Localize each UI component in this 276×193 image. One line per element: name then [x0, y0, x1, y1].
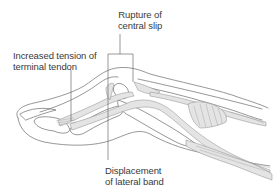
- flexor-tendon-bundle: [186, 140, 272, 180]
- label-line: Increased tension of: [13, 50, 97, 61]
- label-increased-tension-terminal-tendon: Increased tension of terminal tendon: [13, 50, 97, 72]
- label-line: of lateral band: [105, 176, 164, 187]
- label-rupture-of-central-slip: Rupture of central slip: [117, 9, 163, 31]
- label-displacement-lateral-band: Displacement of lateral band: [105, 165, 164, 187]
- central-slip-stump: [134, 82, 160, 94]
- extensor-hood: [188, 102, 227, 128]
- label-line: Displacement: [105, 165, 164, 176]
- inner-dorsal-contour: [40, 77, 118, 112]
- label-line: terminal tendon: [13, 61, 97, 72]
- label-line: central slip: [117, 20, 163, 31]
- label-line: Rupture of: [117, 9, 163, 20]
